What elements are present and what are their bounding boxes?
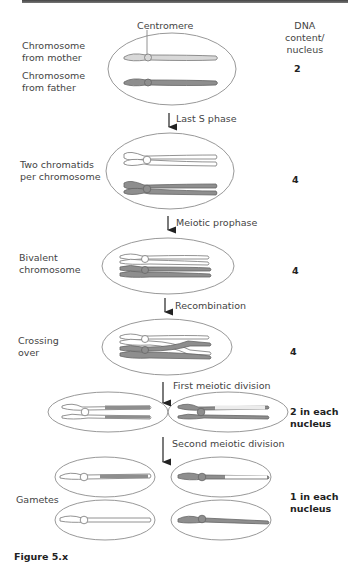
chromosome-father-label: Chromosome from father [22,70,85,94]
dna-value-initial: 2 [294,63,301,75]
dna-value-crossing-over: 4 [290,346,297,358]
bivalent-label: Bivalent chromosome [19,252,81,276]
step-recombination: Recombination [175,300,246,311]
nucleus-division1-left [48,392,168,432]
gametes-label: Gametes [16,494,59,506]
nucleus-two-chromatids [106,133,234,209]
dna-value-first-division: 2 in each nucleus [290,406,339,430]
nucleus-division1-right [168,392,288,432]
step-first-meiotic-division: First meiotic division [173,380,271,391]
nucleus-bivalent [102,238,234,294]
gamete-1 [55,457,155,497]
two-chromatids-label: Two chromatids per chromosome [20,159,100,183]
step-second-meiotic-division: Second meiotic division [172,438,285,449]
step-meiotic-prophase: Meiotic prophase [176,217,257,228]
chromosome-mother-label: Chromosome from mother [22,40,85,64]
nucleus-initial [108,30,236,105]
gamete-2 [171,457,271,497]
dna-value-bivalent: 4 [292,265,299,277]
crossing-over-label: Crossing over [18,335,59,359]
step-last-s-phase: Last S phase [176,113,237,124]
figure-caption: Figure 5.x [14,551,68,562]
nucleus-crossing-over [102,319,232,375]
centromere-label: Centromere [137,20,193,32]
dna-value-gametes: 1 in each nucleus [290,491,339,515]
gamete-3 [55,500,155,540]
gamete-4 [171,500,271,540]
dna-content-header: DNA content/ nucleus [285,20,325,56]
dna-value-two-chromatids: 4 [292,174,299,186]
